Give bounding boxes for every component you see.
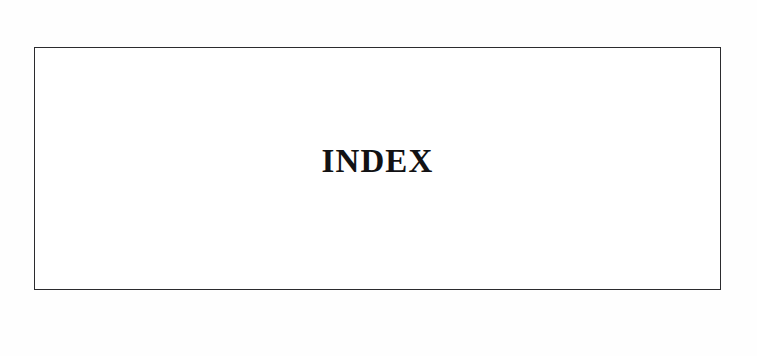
- index-frame: INDEX: [34, 47, 721, 290]
- index-title: INDEX: [35, 144, 720, 178]
- scanned-page: INDEX: [0, 0, 757, 356]
